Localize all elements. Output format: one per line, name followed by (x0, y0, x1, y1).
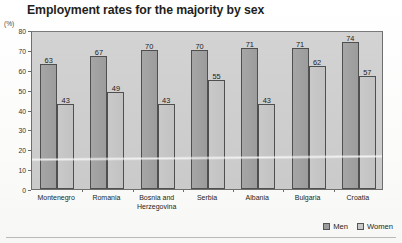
bar-men (90, 56, 107, 189)
legend-swatch-women (357, 223, 364, 230)
x-axis-category-label: Bosnia and Herzegovina (137, 193, 176, 211)
bar-value-label: 71 (246, 40, 254, 49)
bar-value-label: 49 (112, 84, 120, 93)
x-axis-tick-mark (82, 189, 83, 192)
bar-women (57, 104, 74, 189)
y-axis-tick-mark (28, 51, 31, 52)
x-axis-category-label: Serbia (197, 193, 217, 202)
bar-women (107, 92, 124, 189)
bar-men (191, 50, 208, 189)
bar-men (292, 48, 309, 189)
bar-value-label: 43 (62, 96, 70, 105)
bar-value-label: 43 (162, 96, 170, 105)
bar-value-label: 62 (313, 58, 321, 67)
y-axis-tick-mark (28, 91, 31, 92)
bar-value-label: 74 (346, 34, 354, 43)
bar-women (208, 80, 225, 189)
y-axis-tick-mark (28, 150, 31, 151)
bar-value-label: 67 (95, 48, 103, 57)
y-axis-tick-mark (28, 130, 31, 131)
legend-label-women: Women (367, 222, 393, 231)
x-axis-tick-mark (334, 189, 335, 192)
legend-swatch-men (323, 223, 330, 230)
y-axis-tick-mark (28, 31, 31, 32)
bar-value-label: 57 (363, 68, 371, 77)
bar-value-label: 55 (212, 72, 220, 81)
x-axis-category-label: Romania (92, 193, 120, 202)
chart-title: Employment rates for the majority by sex (27, 3, 264, 17)
y-axis-tick-label: 70 (0, 47, 26, 54)
legend-label-men: Men (333, 222, 348, 231)
y-axis-unit-label: (%) (4, 20, 14, 27)
x-axis-category-label: Albania (246, 193, 269, 202)
x-axis-category-label: Bulgaria (295, 193, 321, 202)
x-axis-tick-mark (183, 189, 184, 192)
y-axis-tick-label: 60 (0, 67, 26, 74)
chart-page: Employment rates for the majority by sex… (0, 0, 402, 243)
y-axis-tick-label: 30 (0, 127, 26, 134)
bar-women (359, 76, 376, 189)
footer-rule (6, 237, 396, 238)
bar-value-label: 63 (45, 56, 53, 65)
y-axis-tick-label: 10 (0, 167, 26, 174)
bar-women (258, 104, 275, 189)
bar-value-label: 71 (296, 40, 304, 49)
legend-item-women[interactable]: Women (357, 222, 393, 231)
bar-value-label: 43 (263, 96, 271, 105)
x-axis-tick-mark (283, 189, 284, 192)
y-axis-tick-label: 50 (0, 87, 26, 94)
bar-value-label: 70 (145, 42, 153, 51)
bar-women (158, 104, 175, 189)
bar-men (241, 48, 258, 189)
x-axis-tick-mark (233, 189, 234, 192)
plot-area: 6343674970437055714371627457 (31, 31, 383, 190)
y-axis-tick-mark (28, 71, 31, 72)
y-axis-tick-mark (28, 170, 31, 171)
bar-men (342, 42, 359, 189)
legend-item-men[interactable]: Men (323, 222, 348, 231)
bar-value-label: 70 (195, 42, 203, 51)
x-axis-tick-mark (133, 189, 134, 192)
bar-men (40, 64, 57, 189)
y-axis-tick-mark (28, 111, 31, 112)
y-axis-tick-label: 80 (0, 28, 26, 35)
x-axis-category-label: Croatia (347, 193, 370, 202)
y-axis-tick-label: 0 (0, 187, 26, 194)
x-axis-category-label: Montenegro (37, 193, 74, 202)
chart-legend: Men Women (323, 222, 393, 231)
bar-women (309, 66, 326, 189)
bar-series-container: 6343674970437055714371627457 (32, 32, 382, 189)
y-axis-tick-label: 40 (0, 107, 26, 114)
y-axis-tick-label: 20 (0, 147, 26, 154)
bar-men (141, 50, 158, 189)
y-axis-tick-mark (28, 190, 31, 191)
